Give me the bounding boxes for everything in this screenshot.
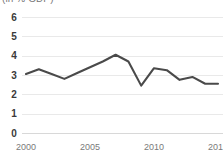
y-axis-ticks: 6543210	[11, 12, 17, 139]
x-axis-ticks: 2000200520102015	[16, 142, 223, 152]
x-axis-tick-label: 2015	[208, 142, 223, 152]
y-axis-tick-label: 1	[11, 108, 17, 119]
x-axis-tick-label: 2010	[144, 142, 164, 152]
y-axis-tick-label: 3	[11, 70, 17, 81]
chart-plot-area: 6543210 2000200520102015	[0, 0, 223, 155]
line-chart: (in % GDP) 6543210 2000200520102015	[0, 0, 223, 155]
series-line-value	[26, 55, 218, 86]
y-axis-tick-label: 4	[11, 50, 17, 61]
y-axis-tick-label: 0	[11, 128, 17, 139]
y-axis-tick-label: 5	[11, 31, 17, 42]
x-axis-tick-label: 2000	[16, 142, 36, 152]
gridlines	[22, 18, 223, 134]
y-axis-tick-label: 2	[11, 89, 17, 100]
x-axis-tick-label: 2005	[80, 142, 100, 152]
y-axis-tick-label: 6	[11, 12, 17, 23]
data-series	[26, 55, 218, 86]
